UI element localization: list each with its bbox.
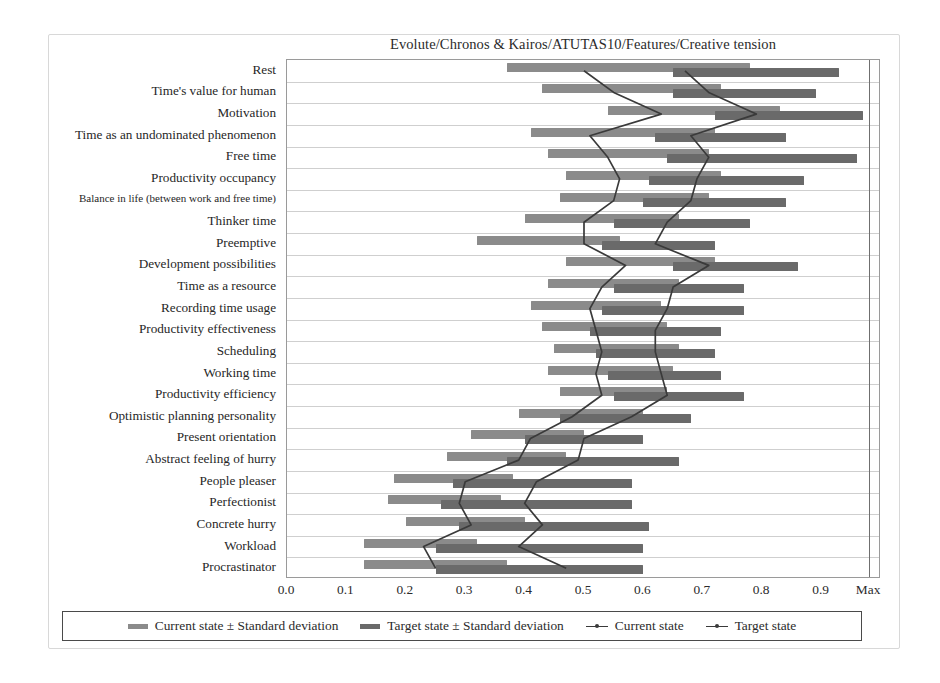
bar-target-state-band [673, 68, 839, 77]
bar-target-state-band [436, 565, 644, 574]
x-axis-tick: 0.9 [812, 582, 829, 598]
gridline [287, 493, 879, 494]
gridline [287, 168, 879, 169]
bar-target-state-band [602, 306, 745, 315]
x-axis-tick: Max [856, 582, 881, 598]
bar-target-state-band [715, 111, 864, 120]
legend-swatch-current-band [128, 624, 148, 629]
y-axis-label: Balance in life (between work and free t… [79, 193, 276, 204]
chart-legend: Current state ± Standard deviationTarget… [62, 611, 862, 641]
x-axis-tick-labels: 0.00.10.20.30.40.50.60.70.80.9Max [286, 582, 880, 604]
bar-target-state-band [436, 544, 644, 553]
legend-item[interactable]: Target state ± Standard deviation [360, 618, 563, 634]
y-axis-label: Recording time usage [161, 301, 276, 314]
bar-target-state-band [560, 414, 691, 423]
y-axis-label: Time's value for human [151, 84, 276, 97]
gridline [287, 103, 879, 104]
bar-target-state-band [602, 241, 715, 250]
y-axis-label: Working time [203, 366, 276, 379]
y-axis-label: Workload [224, 539, 276, 552]
y-axis-label: Productivity effectiveness [139, 322, 276, 335]
legend-item-label: Current state ± Standard deviation [155, 618, 339, 634]
y-axis-label: Rest [253, 63, 276, 76]
gridline [287, 233, 879, 234]
bar-target-state-band [649, 176, 803, 185]
x-axis-tick: 0.0 [278, 582, 295, 598]
y-axis-label: Abstract feeling of hurry [145, 452, 276, 465]
legend-item-label: Target state [735, 618, 797, 634]
legend-item[interactable]: Current state ± Standard deviation [128, 618, 339, 634]
gridline [287, 471, 879, 472]
bar-target-state-band [525, 435, 644, 444]
bar-target-state-band [459, 522, 649, 531]
bar-target-state-band [643, 198, 786, 207]
legend-item[interactable]: Current state [586, 618, 684, 634]
y-axis-category-labels: RestTime's value for humanMotivationTime… [0, 59, 282, 578]
bar-target-state-band [596, 349, 715, 358]
plot-area [286, 59, 880, 578]
x-axis-tick: 0.8 [753, 582, 770, 598]
y-axis-label: Thinker time [208, 214, 276, 227]
y-axis-label: Preemptive [216, 236, 276, 249]
legend-item-label: Current state [615, 618, 684, 634]
gridline [287, 363, 879, 364]
bar-target-state-band [673, 89, 816, 98]
y-axis-label: Productivity efficiency [155, 387, 276, 400]
y-axis-label: Present orientation [177, 430, 276, 443]
y-axis-label: Optimistic planning personality [109, 409, 276, 422]
y-axis-label: People pleaser [199, 474, 276, 487]
gridline [287, 276, 879, 277]
legend-line-marker-icon [586, 624, 608, 629]
gridline [287, 557, 879, 558]
x-axis-tick: 0.2 [396, 582, 413, 598]
bar-target-state-band [667, 154, 857, 163]
bar-target-state-band [608, 371, 721, 380]
bar-target-state-band [441, 500, 631, 509]
gridline [287, 428, 879, 429]
bar-target-state-band [673, 262, 798, 271]
gridline [287, 449, 879, 450]
legend-line-marker-icon [706, 624, 728, 629]
gridline [287, 341, 879, 342]
figure-container: Evolute/Chronos & Kairos/ATUTAS10/Featur… [0, 0, 940, 683]
max-marker-line [869, 60, 870, 577]
y-axis-label: Motivation [217, 106, 276, 119]
y-axis-label: Productivity occupancy [151, 171, 276, 184]
gridline [287, 536, 879, 537]
bar-target-state-band [614, 392, 745, 401]
legend-item-label: Target state ± Standard deviation [387, 618, 563, 634]
gridline [287, 147, 879, 148]
gridline [287, 255, 879, 256]
bar-target-state-band [590, 327, 721, 336]
legend-item[interactable]: Target state [706, 618, 797, 634]
bar-target-state-band [507, 457, 679, 466]
y-axis-label: Time as a resource [177, 279, 276, 292]
x-axis-tick: 0.3 [456, 582, 473, 598]
gridline [287, 211, 879, 212]
bar-target-state-band [453, 479, 631, 488]
gridline [287, 298, 879, 299]
x-axis-tick: 0.7 [693, 582, 710, 598]
gridline [287, 320, 879, 321]
y-axis-label: Free time [226, 149, 276, 162]
x-axis-tick: 0.4 [515, 582, 532, 598]
gridline [287, 125, 879, 126]
y-axis-label: Development possibilities [139, 257, 276, 270]
bar-current-state-band [477, 236, 620, 245]
legend-swatch-target-band [360, 624, 380, 629]
y-axis-label: Time as an undominated phenomenon [75, 128, 276, 141]
y-axis-label: Scheduling [217, 344, 276, 357]
gridline [287, 82, 879, 83]
gridline [287, 514, 879, 515]
x-axis-tick: 0.5 [575, 582, 592, 598]
y-axis-label: Perfectionist [209, 495, 276, 508]
gridline [287, 190, 879, 191]
bar-target-state-band [614, 284, 745, 293]
y-axis-label: Concrete hurry [197, 517, 276, 530]
bar-target-state-band [655, 133, 786, 142]
y-axis-label: Procrastinator [202, 560, 276, 573]
chart-title: Evolute/Chronos & Kairos/ATUTAS10/Featur… [286, 36, 880, 53]
bar-target-state-band [614, 219, 751, 228]
gridline [287, 406, 879, 407]
x-axis-tick: 0.6 [634, 582, 651, 598]
